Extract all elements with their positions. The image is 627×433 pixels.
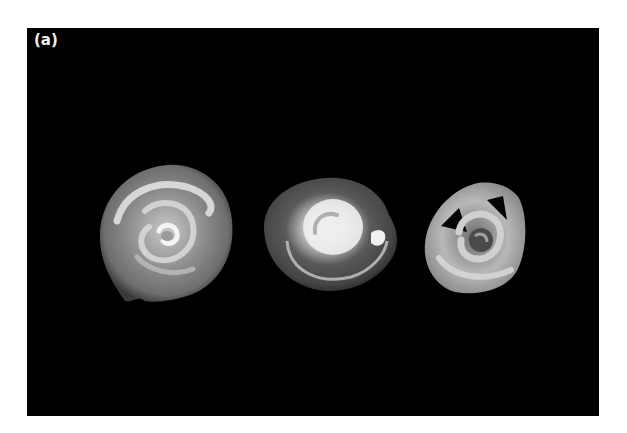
shell-center-image xyxy=(259,171,399,296)
photo-panel: (a) xyxy=(27,28,599,416)
shell-left-image xyxy=(97,161,237,306)
shell-center xyxy=(259,171,399,296)
figure: (a) xyxy=(0,0,627,433)
shell-right xyxy=(419,178,529,298)
panel-label: (a) xyxy=(34,31,58,49)
shell-right-image xyxy=(419,178,529,298)
shell-left xyxy=(97,161,237,306)
